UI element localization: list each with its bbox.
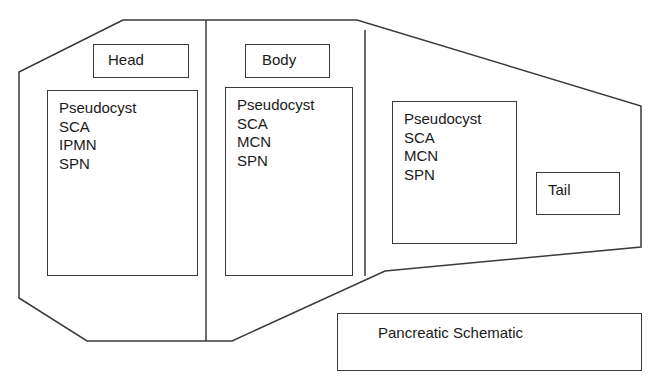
list-item: Pseudocyst bbox=[237, 96, 315, 115]
diagram-title: Pancreatic Schematic bbox=[378, 324, 523, 342]
tail-lesion-list-box: Pseudocyst SCA MCN SPN bbox=[392, 101, 517, 244]
tail-lesion-list: Pseudocyst SCA MCN SPN bbox=[404, 110, 482, 184]
list-item: SCA bbox=[237, 115, 315, 134]
list-item: SPN bbox=[59, 155, 137, 174]
list-item: Pseudocyst bbox=[404, 110, 482, 129]
body-label-box: Body bbox=[245, 44, 330, 78]
body-lesion-list: Pseudocyst SCA MCN SPN bbox=[237, 96, 315, 170]
list-item: MCN bbox=[237, 133, 315, 152]
tail-label: Tail bbox=[548, 181, 571, 199]
list-item: SCA bbox=[59, 118, 137, 137]
list-item: SCA bbox=[404, 129, 482, 148]
body-label: Body bbox=[262, 51, 296, 69]
head-lesion-list: Pseudocyst SCA IPMN SPN bbox=[59, 99, 137, 173]
list-item: SPN bbox=[404, 166, 482, 185]
head-lesion-list-box: Pseudocyst SCA IPMN SPN bbox=[47, 90, 198, 276]
head-label-box: Head bbox=[93, 44, 189, 78]
list-item: IPMN bbox=[59, 136, 137, 155]
body-lesion-list-box: Pseudocyst SCA MCN SPN bbox=[225, 87, 353, 276]
tail-label-box: Tail bbox=[536, 172, 620, 215]
list-item: MCN bbox=[404, 147, 482, 166]
list-item: Pseudocyst bbox=[59, 99, 137, 118]
diagram-title-box: Pancreatic Schematic bbox=[337, 313, 642, 371]
head-label: Head bbox=[108, 51, 144, 69]
list-item: SPN bbox=[237, 152, 315, 171]
